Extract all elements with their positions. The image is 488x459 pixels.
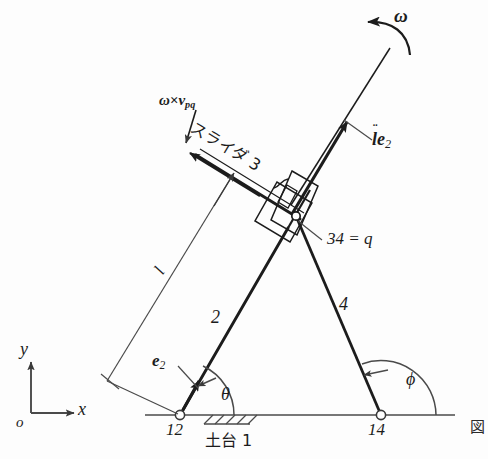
double-dot-accent: ¨ xyxy=(373,122,377,137)
e2-unit-vector-label: e2 xyxy=(152,352,165,372)
y-axis-label: y xyxy=(20,340,28,358)
phi-angle-arc xyxy=(362,361,436,415)
omega-symbol: ω× xyxy=(159,92,178,108)
omega-cross-v-label: ω×vpq xyxy=(159,93,195,110)
length-dimension-group xyxy=(101,173,234,414)
e-subscript: 2 xyxy=(385,137,391,151)
origin-label: o xyxy=(16,415,24,430)
coordinate-axes xyxy=(31,362,74,413)
v-subscript: pq xyxy=(185,99,195,110)
ddot-l-e2-label: ¨le2 xyxy=(372,130,391,151)
joint-12-label: 12 xyxy=(166,421,183,438)
joint-34-q-label: 34 = q xyxy=(327,230,372,247)
omega-label: ω xyxy=(394,6,408,25)
joint-14-label: 14 xyxy=(368,421,385,438)
x-axis-label: x xyxy=(78,400,86,418)
mechanism-drawing xyxy=(0,0,488,459)
link-2-rod xyxy=(180,190,310,415)
joint-14-pivot xyxy=(376,410,385,419)
ground-line-group xyxy=(145,415,455,424)
e2-base-symbol: e xyxy=(152,351,160,370)
e-symbol: e xyxy=(377,129,385,149)
figure-canvas: ω ω×vpq スライダ 3 ¨le2 34 = q 2 4 e2 l θ ϕ … xyxy=(0,0,488,459)
e2-subscript: 2 xyxy=(160,359,166,372)
link-2-label: 2 xyxy=(211,308,220,326)
joint-34-pivot xyxy=(292,212,300,220)
link-4-label: 4 xyxy=(339,295,348,313)
theta-label: θ xyxy=(221,385,230,403)
ground-hatching-icon xyxy=(204,415,257,424)
phi-label: ϕ xyxy=(406,370,415,388)
figure-corner-mark: 図 xyxy=(470,420,488,435)
ddot-l-symbol: ¨l xyxy=(372,130,377,148)
joint-12-pivot xyxy=(175,410,184,419)
base-1-label: 土台 1 xyxy=(205,433,252,449)
